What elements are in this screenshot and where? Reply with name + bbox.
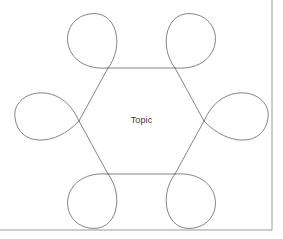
petal-top-right-shape[interactable]	[166, 14, 215, 69]
hexagon-edge-lower-right	[175, 121, 204, 174]
diagram-canvas: Topic	[0, 0, 283, 239]
petal-top-left-shape[interactable]	[68, 14, 117, 69]
hexagon-edge-lower-left	[79, 121, 108, 174]
petal-bottom-left-shape[interactable]	[68, 174, 117, 229]
center-topic-label: Topic	[0, 114, 283, 126]
petal-bottom-right-shape[interactable]	[166, 174, 215, 229]
